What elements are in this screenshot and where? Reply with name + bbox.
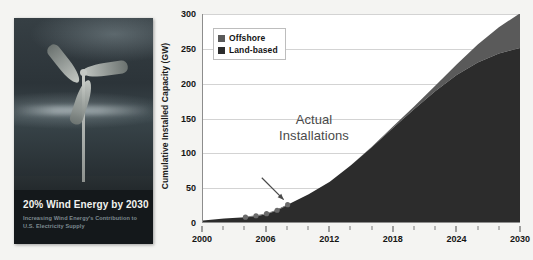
- plot-area: Offshore Land-based Actual Installations: [202, 14, 520, 223]
- x-tick-mark-minor: [223, 226, 224, 230]
- y-tick-mark: [202, 84, 203, 85]
- annotation-line-2: Installations: [259, 128, 369, 144]
- y-tick-mark: [202, 14, 203, 15]
- x-tick-label: 2000: [192, 234, 212, 244]
- y-axis-tick-labels: 050100150200250300: [172, 14, 200, 223]
- report-cover-image: 20% Wind Energy by 2030 Increasing Wind …: [14, 18, 153, 244]
- x-tick-mark-minor: [477, 226, 478, 230]
- y-tick-mark: [202, 119, 203, 120]
- chart-legend: Offshore Land-based: [213, 28, 286, 60]
- data-point-marker: [243, 215, 248, 220]
- x-tick-mark-major: [392, 226, 393, 232]
- legend-swatch-offshore-icon: [218, 35, 225, 42]
- legend-label-land-based: Land-based: [229, 45, 278, 55]
- x-axis-tick-labels: 200020062012201820242030: [202, 226, 520, 242]
- y-tick-mark: [202, 153, 203, 154]
- x-tick-mark-minor: [435, 226, 436, 230]
- data-point-marker: [275, 208, 280, 213]
- x-tick-mark-minor: [244, 226, 245, 230]
- data-point-marker: [264, 211, 269, 216]
- y-axis-label-text: Cumulative Installed Capacity (GW): [160, 42, 170, 189]
- x-tick-mark-major: [202, 226, 203, 232]
- annotation-actual-installations: Actual Installations: [259, 112, 369, 144]
- x-tick-mark-major: [329, 226, 330, 232]
- legend-swatch-land-based-icon: [218, 47, 225, 54]
- data-point-marker: [253, 213, 258, 218]
- plot-area-wrapper: Offshore Land-based Actual Installations: [202, 14, 520, 223]
- screenshot-root: 20% Wind Energy by 2030 Increasing Wind …: [0, 0, 533, 260]
- y-tick-label: 200: [181, 79, 196, 89]
- x-tick-mark-major: [520, 226, 521, 232]
- y-tick-label: 150: [181, 114, 196, 124]
- x-tick-mark-minor: [414, 226, 415, 230]
- annotation-line-1: Actual: [259, 112, 369, 128]
- data-point-marker: [285, 202, 290, 207]
- turbine-hub: [80, 69, 87, 76]
- x-tick-label: 2012: [319, 234, 339, 244]
- y-axis-label: Cumulative Installed Capacity (GW): [158, 8, 172, 223]
- x-tick-mark-major: [456, 226, 457, 232]
- cover-subtitle-line-2: U.S. Electricity Supply: [23, 222, 144, 230]
- x-tick-label: 2030: [510, 234, 530, 244]
- y-tick-mark: [202, 188, 203, 189]
- y-tick-mark: [202, 49, 203, 50]
- x-tick-label: 2024: [446, 234, 466, 244]
- x-tick-mark-minor: [286, 226, 287, 230]
- y-tick-label: 50: [186, 183, 196, 193]
- legend-item-offshore: Offshore: [218, 32, 278, 44]
- x-tick-mark-minor: [308, 226, 309, 230]
- x-tick-label: 2006: [256, 234, 276, 244]
- x-tick-mark-minor: [350, 226, 351, 230]
- y-tick-label: 100: [181, 148, 196, 158]
- x-tick-mark-major: [265, 226, 266, 232]
- capacity-area-chart: Cumulative Installed Capacity (GW) 05010…: [158, 8, 526, 254]
- x-tick-mark-minor: [371, 226, 372, 230]
- cover-caption-box: 20% Wind Energy by 2030 Increasing Wind …: [14, 190, 153, 244]
- x-tick-label: 2018: [383, 234, 403, 244]
- cover-title: 20% Wind Energy by 2030: [23, 199, 144, 211]
- legend-item-land-based: Land-based: [218, 44, 278, 56]
- y-tick-label: 250: [181, 44, 196, 54]
- legend-label-offshore: Offshore: [229, 33, 265, 43]
- x-tick-mark-minor: [498, 226, 499, 230]
- y-tick-label: 300: [181, 9, 196, 19]
- cover-subtitle-line-1: Increasing Wind Energy's Contribution to: [23, 214, 144, 222]
- y-tick-label: 0: [191, 218, 196, 228]
